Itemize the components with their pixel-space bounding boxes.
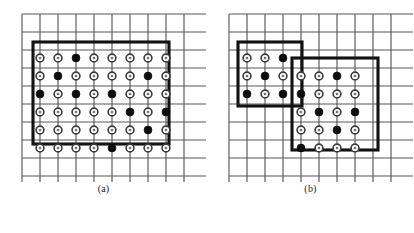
panel-a: (a): [0, 0, 207, 233]
node-open-center: [75, 147, 78, 150]
panel-a-diagram: [0, 0, 207, 190]
node-open-center: [318, 147, 321, 150]
node-open-center: [165, 147, 168, 150]
node-open-center: [93, 147, 96, 150]
node-filled[interactable]: [54, 72, 62, 80]
node-open-center: [264, 57, 267, 60]
node-open-center: [147, 147, 150, 150]
node-open-center: [147, 57, 150, 60]
node-open-center: [336, 93, 339, 96]
figure-root: (a) (b): [0, 0, 414, 233]
node-open-center: [336, 147, 339, 150]
node-filled[interactable]: [144, 72, 152, 80]
node-open-center: [93, 93, 96, 96]
node-open-center: [39, 147, 42, 150]
node-open-center: [93, 111, 96, 114]
node-open-center: [111, 75, 114, 78]
node-filled[interactable]: [279, 90, 287, 98]
node-filled[interactable]: [333, 126, 341, 134]
node-open-center: [246, 75, 249, 78]
node-open-center: [318, 75, 321, 78]
node-open-center: [39, 57, 42, 60]
node-open-center: [129, 75, 132, 78]
node-open-center: [57, 147, 60, 150]
panel-b-diagram: [207, 0, 414, 190]
node-filled[interactable]: [144, 126, 152, 134]
node-open-center: [57, 129, 60, 132]
node-filled[interactable]: [36, 90, 44, 98]
node-open-center: [93, 75, 96, 78]
node-filled[interactable]: [279, 54, 287, 62]
panel-a-caption: (a): [0, 183, 207, 194]
node-open-center: [39, 75, 42, 78]
node-open-center: [129, 147, 132, 150]
node-open-center: [57, 57, 60, 60]
node-open-center: [354, 93, 357, 96]
node-open-center: [75, 129, 78, 132]
node-open-center: [300, 75, 303, 78]
node-open-center: [39, 111, 42, 114]
dot-grid-a: [36, 54, 170, 152]
grid-lines: [22, 14, 206, 182]
node-filled[interactable]: [243, 90, 251, 98]
node-open-center: [147, 93, 150, 96]
node-open-center: [318, 93, 321, 96]
node-open-center: [300, 111, 303, 114]
node-filled[interactable]: [108, 90, 116, 98]
node-open-center: [111, 129, 114, 132]
node-filled[interactable]: [162, 108, 170, 116]
node-open-center: [300, 129, 303, 132]
node-open-center: [165, 75, 168, 78]
node-filled[interactable]: [297, 90, 305, 98]
node-filled[interactable]: [315, 108, 323, 116]
node-filled[interactable]: [297, 144, 305, 152]
node-open-center: [165, 57, 168, 60]
node-open-center: [111, 111, 114, 114]
node-filled[interactable]: [351, 108, 359, 116]
node-open-center: [129, 93, 132, 96]
node-open-center: [354, 75, 357, 78]
node-filled[interactable]: [261, 72, 269, 80]
node-filled[interactable]: [72, 54, 80, 62]
node-filled[interactable]: [126, 108, 134, 116]
node-open-center: [165, 93, 168, 96]
node-open-center: [75, 75, 78, 78]
node-open-center: [264, 93, 267, 96]
node-open-center: [336, 111, 339, 114]
node-filled[interactable]: [333, 72, 341, 80]
node-open-center: [39, 129, 42, 132]
dots-left: [243, 54, 287, 98]
node-open-center: [111, 57, 114, 60]
node-open-center: [165, 129, 168, 132]
node-open-center: [57, 93, 60, 96]
node-open-center: [354, 147, 357, 150]
node-open-center: [282, 75, 285, 78]
panel-b-caption: (b): [207, 183, 414, 194]
node-open-center: [318, 129, 321, 132]
node-open-center: [354, 129, 357, 132]
node-filled[interactable]: [108, 144, 116, 152]
node-open-center: [129, 57, 132, 60]
node-open-center: [246, 57, 249, 60]
node-open-center: [147, 111, 150, 114]
node-open-center: [93, 129, 96, 132]
node-open-center: [75, 111, 78, 114]
node-filled[interactable]: [72, 90, 80, 98]
node-open-center: [57, 111, 60, 114]
panel-b: (b): [207, 0, 414, 233]
node-open-center: [93, 57, 96, 60]
node-open-center: [129, 129, 132, 132]
